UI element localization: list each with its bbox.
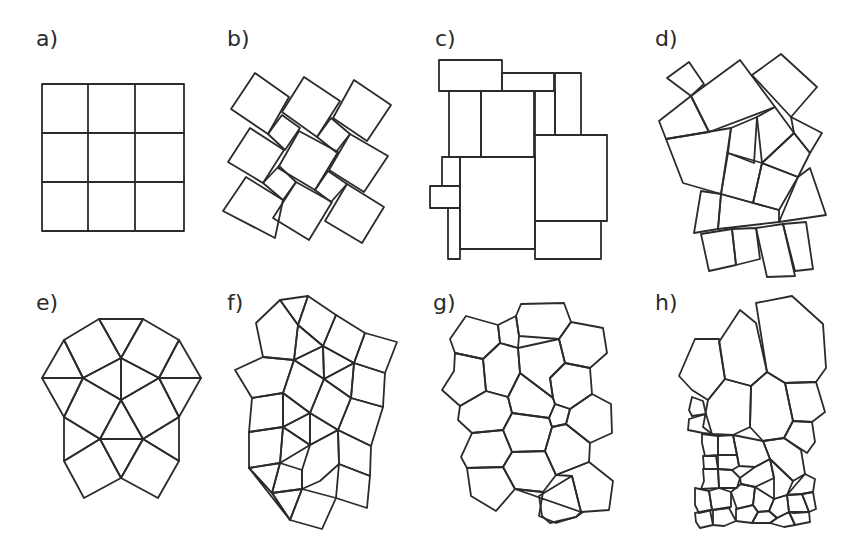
panel-h-voronoi-gradient <box>679 296 826 528</box>
panel-c-rectangle-packing <box>430 60 607 259</box>
panel-g-voronoi-uniform <box>442 303 613 523</box>
panel-f-mixed-tiling <box>235 296 397 529</box>
panel-b-pinwheel-tiling <box>223 73 391 243</box>
panel-d-quad-tiling <box>659 54 826 277</box>
tiling-figure <box>0 0 864 560</box>
panel-a-square-grid <box>42 84 184 231</box>
panel-e-snub-square-tiling <box>42 319 201 498</box>
